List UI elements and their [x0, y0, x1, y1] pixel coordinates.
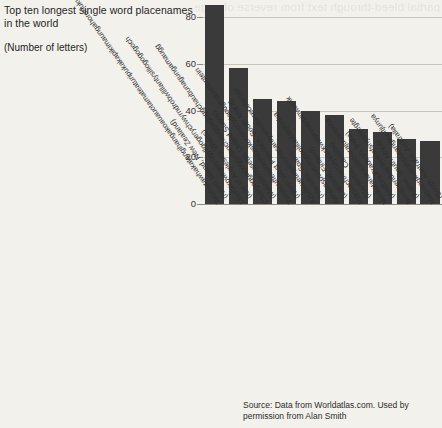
bar[interactable]	[373, 132, 392, 204]
y-tick-label: 60	[160, 58, 196, 69]
bar[interactable]	[205, 5, 224, 204]
y-tick-label: 20	[160, 151, 196, 162]
bar[interactable]	[325, 115, 344, 204]
page-title: Top ten longest single word placenames i…	[4, 4, 194, 30]
bar[interactable]	[277, 101, 296, 204]
bar[interactable]	[253, 99, 272, 204]
bar[interactable]	[349, 129, 368, 204]
bar[interactable]	[420, 141, 439, 204]
chart-header: Top ten longest single word placenames i…	[4, 4, 194, 54]
source-note: Source: Data from Worldatlas.com. Used b…	[243, 400, 439, 422]
bar-series	[203, 0, 442, 204]
bar[interactable]	[397, 139, 416, 204]
y-tick-label: 0	[160, 198, 196, 209]
bar[interactable]	[301, 111, 320, 205]
y-tick-label: 40	[160, 105, 196, 116]
chart-subtitle: (Number of letters)	[4, 41, 194, 54]
bar[interactable]	[229, 68, 248, 204]
x-axis-line	[197, 204, 442, 205]
x-axis-labels: Taumatawhakatangihangakoauauotamateaturi…	[0, 206, 442, 381]
